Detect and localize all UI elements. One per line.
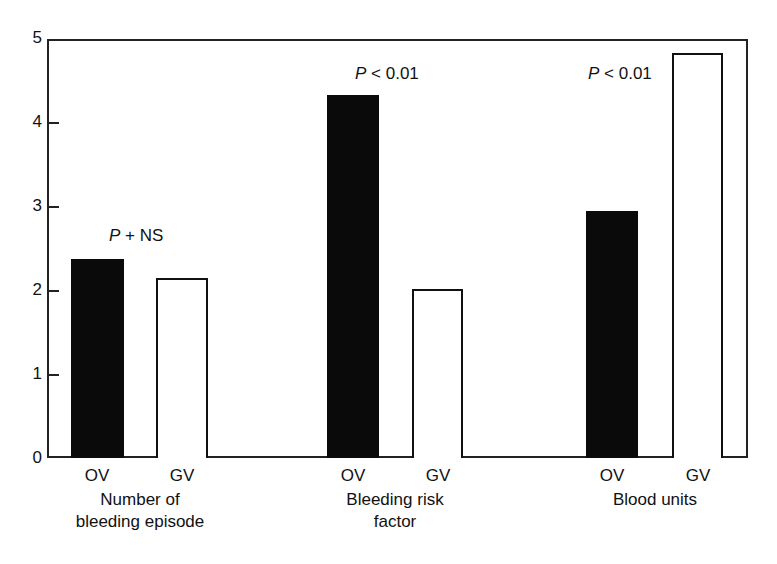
y-tick-1 — [49, 374, 59, 376]
y-label-3: 3 — [22, 196, 42, 216]
bar-gv-blood-units — [672, 53, 723, 458]
y-tick-2 — [49, 290, 59, 292]
x-label-ov-1: OV — [67, 466, 127, 486]
bar-ov-blood-units — [586, 211, 638, 458]
y-label-0: 0 — [22, 448, 42, 468]
x-label-ov-3: OV — [582, 466, 642, 486]
y-label-4: 4 — [22, 112, 42, 132]
group-label-blood-units: Blood units — [595, 489, 715, 511]
x-label-gv-1: GV — [152, 466, 212, 486]
y-label-1: 1 — [22, 364, 42, 384]
plot-frame — [47, 39, 748, 458]
y-tick-3 — [49, 206, 59, 208]
bar-ov-bleeding-risk — [327, 95, 379, 458]
group-label-bleeding-risk: Bleeding riskfactor — [320, 489, 470, 533]
y-label-5: 5 — [22, 28, 42, 48]
annotation-p-001-units: P < 0.01 — [588, 64, 652, 84]
y-tick-4 — [49, 122, 59, 124]
bar-gv-bleeding-risk — [412, 289, 463, 458]
y-label-2: 2 — [22, 280, 42, 300]
annotation-p-ns: P + NS — [109, 226, 163, 246]
bar-ov-bleeding-episode — [71, 259, 124, 458]
x-label-gv-2: GV — [408, 466, 468, 486]
x-label-gv-3: GV — [668, 466, 728, 486]
annotation-p-001-risk: P < 0.01 — [355, 64, 419, 84]
x-label-ov-2: OV — [323, 466, 383, 486]
bar-gv-bleeding-episode — [156, 278, 208, 458]
group-label-bleeding-episode: Number ofbleeding episode — [50, 489, 230, 533]
